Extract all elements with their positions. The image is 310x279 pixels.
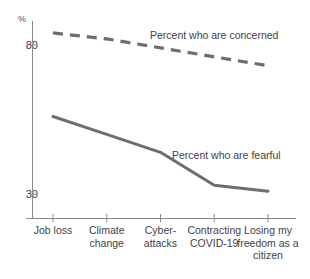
series-line-concerned [53, 33, 268, 66]
chart-container: of Americans % 80 30 Job loss Climate ch… [0, 0, 310, 279]
series-line-fearful [53, 117, 268, 192]
series-group [53, 33, 268, 191]
chart-plot-area [0, 0, 310, 279]
